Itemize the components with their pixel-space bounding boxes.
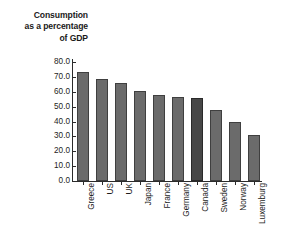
y-tick-mark [72, 136, 76, 137]
x-tick-label-sweden: Sweden [220, 183, 229, 213]
x-tick-mark [178, 181, 179, 185]
y-tick-label: 50.0 [36, 103, 70, 111]
y-tick-mark [72, 107, 76, 108]
y-axis-ticks: 80.070.060.050.040.030.020.010.00.0 [32, 0, 70, 244]
y-tick-label: 10.0 [36, 162, 70, 170]
bar-germany [172, 97, 185, 181]
x-tick-label-germany: Germany [182, 183, 191, 217]
x-tick-mark [102, 181, 103, 185]
y-tick-mark [72, 62, 76, 63]
x-tick-label-uk: UK [125, 183, 134, 194]
bar-japan [134, 91, 147, 181]
x-tick-label-luxemburg: Luxemburg [258, 183, 267, 224]
bar-france [153, 95, 166, 181]
x-tick-label-japan: Japan [144, 183, 153, 205]
y-tick-label: 80.0 [36, 58, 70, 66]
x-tick-mark [197, 181, 198, 185]
x-tick-mark [140, 181, 141, 185]
bar-greece [77, 72, 90, 181]
x-tick-mark [159, 181, 160, 185]
y-tick-mark [72, 151, 76, 152]
y-tick-label: 20.0 [36, 147, 70, 155]
x-tick-mark [121, 181, 122, 185]
x-tick-mark [216, 181, 217, 185]
y-tick-mark [72, 92, 76, 93]
y-tick-label: 0.0 [36, 177, 70, 185]
x-tick-mark [254, 181, 255, 185]
x-tick-label-canada: Canada [201, 183, 210, 212]
y-tick-mark [72, 77, 76, 78]
bar-canada [191, 98, 204, 181]
bar-sweden [210, 110, 223, 181]
y-tick-mark [72, 181, 76, 182]
y-tick-mark [72, 166, 76, 167]
x-tick-label-us: US [106, 183, 115, 194]
y-tick-mark [72, 122, 76, 123]
x-tick-label-greece: Greece [87, 183, 96, 210]
y-tick-label: 60.0 [36, 88, 70, 96]
bar-norway [229, 122, 242, 182]
x-tick-label-france: France [163, 183, 172, 208]
x-axis-line [72, 181, 262, 182]
bar-chart: Consumption as a percentage of GDP 80.07… [0, 0, 281, 244]
bar-us [96, 79, 109, 181]
x-tick-mark [235, 181, 236, 185]
y-tick-label: 40.0 [36, 118, 70, 126]
x-tick-mark [83, 181, 84, 185]
y-tick-label: 30.0 [36, 132, 70, 140]
bar-luxemburg [248, 135, 261, 181]
x-tick-label-norway: Norway [239, 183, 248, 211]
y-tick-label: 70.0 [36, 73, 70, 81]
x-axis-labels: GreeceUSUKJapanFranceGermanyCanadaSweden… [72, 183, 262, 244]
bar-uk [115, 83, 128, 181]
plot-area [72, 58, 262, 181]
